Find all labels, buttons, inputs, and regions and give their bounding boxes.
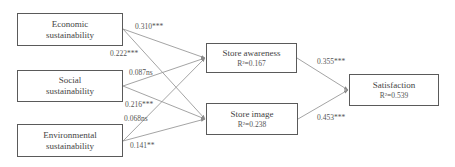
coef-economic-image: 0.222*** (110, 49, 138, 58)
coef-environmental-awareness: 0.068ns (124, 114, 148, 123)
coef-awareness-satisfaction: 0.355*** (317, 57, 345, 66)
node-environmental-sustainability: Environmental sustainability (17, 124, 123, 157)
r-squared: R²=0.539 (380, 91, 408, 100)
path-diagram: Economic sustainability Social sustainab… (0, 0, 455, 167)
node-social-sustainability: Social sustainability (17, 70, 123, 102)
coef-image-satisfaction: 0.453*** (317, 113, 345, 122)
coef-social-awareness: 0.087ns (129, 68, 153, 77)
r-squared: R²=0.238 (238, 120, 266, 129)
node-economic-sustainability: Economic sustainability (17, 13, 123, 46)
r-squared: R²=0.167 (237, 59, 265, 68)
coef-environmental-image: 0.141** (130, 141, 154, 150)
node-label: sustainability (46, 30, 94, 41)
node-label: Satisfaction (373, 80, 416, 91)
node-label: Store image (230, 109, 273, 120)
node-label: sustainability (46, 141, 94, 152)
node-label: Environmental (43, 130, 97, 141)
node-label: sustainability (46, 86, 94, 97)
node-label: Economic (52, 19, 89, 30)
node-label: Store awareness (222, 48, 280, 59)
node-label: Social (59, 75, 82, 86)
coef-social-image: 0.216*** (125, 100, 153, 109)
node-satisfaction: Satisfaction R²=0.539 (349, 74, 439, 106)
node-store-awareness: Store awareness R²=0.167 (206, 43, 297, 73)
coef-economic-awareness: 0.310*** (135, 22, 163, 31)
node-store-image: Store image R²=0.238 (206, 103, 298, 135)
